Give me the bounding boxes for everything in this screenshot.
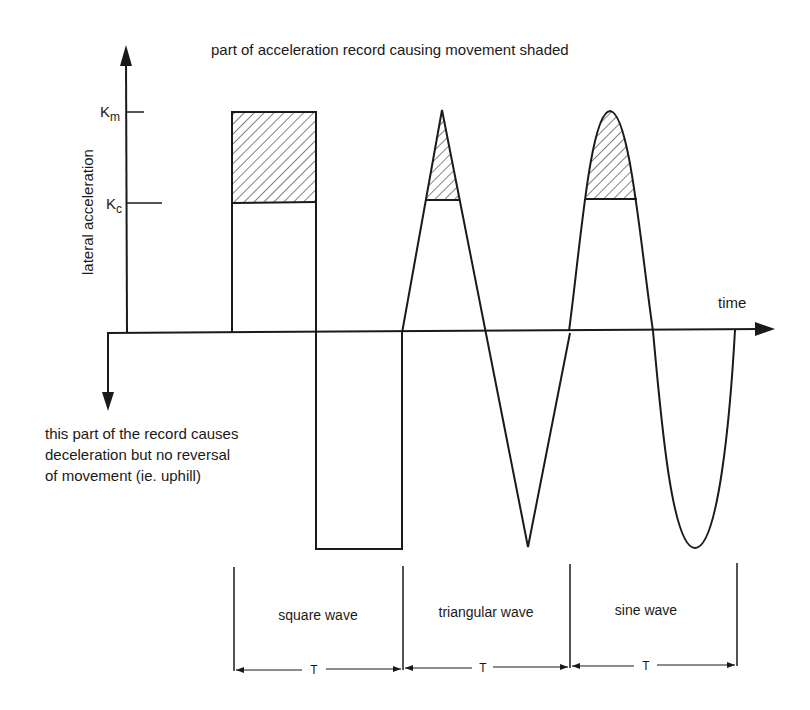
y-axis-label: lateral acceleration [79, 149, 96, 275]
svg-text:this part of the record causes: this part of the record causes [45, 425, 238, 442]
svg-text:T: T [642, 659, 650, 673]
y-axis [126, 58, 127, 333]
square-wave-label: square wave [278, 607, 358, 623]
svg-text:deceleration but no reversal: deceleration but no reversal [45, 446, 230, 463]
triangular-wave [402, 110, 570, 547]
km-label: Km [100, 103, 120, 124]
x-axis-arrow-icon [755, 322, 775, 336]
period-arrow-triangular: T [405, 661, 568, 675]
acceleration-diagram: part of acceleration record causing move… [0, 0, 810, 710]
y-axis-arrow-icon [120, 45, 132, 66]
period-arrow-sine: T [572, 659, 735, 673]
square-shaded-region [232, 112, 316, 203]
kc-label: Kc [106, 195, 122, 216]
diagram-title: part of acceleration record causing move… [211, 41, 569, 58]
triangular-wave-label: triangular wave [439, 604, 534, 620]
x-axis-label: time [718, 294, 746, 311]
down-arrow-icon [102, 392, 114, 411]
svg-text:of movement (ie. uphill): of movement (ie. uphill) [45, 467, 201, 484]
triangle-shaded-region [426, 110, 459, 200]
period-arrow-square: T [236, 663, 401, 677]
deceleration-note: this part of the record causes decelerat… [45, 425, 238, 484]
svg-text:T: T [310, 663, 318, 677]
sine-wave-label: sine wave [615, 602, 677, 618]
svg-text:T: T [479, 661, 487, 675]
x-axis [107, 329, 764, 333]
